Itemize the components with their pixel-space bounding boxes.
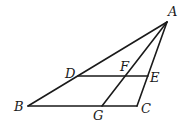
point-label-g: G	[93, 108, 103, 123]
segment-ab	[28, 22, 167, 106]
segments-group	[28, 22, 167, 106]
geometry-diagram: ABCDEFG	[0, 0, 186, 125]
point-label-f: F	[119, 59, 130, 74]
point-label-a: A	[167, 4, 177, 19]
point-label-b: B	[13, 99, 24, 114]
point-label-c: C	[141, 101, 151, 116]
segment-ca	[137, 22, 167, 106]
point-label-e: E	[149, 70, 160, 85]
segment-ag	[102, 22, 167, 106]
point-label-d: D	[64, 66, 76, 81]
